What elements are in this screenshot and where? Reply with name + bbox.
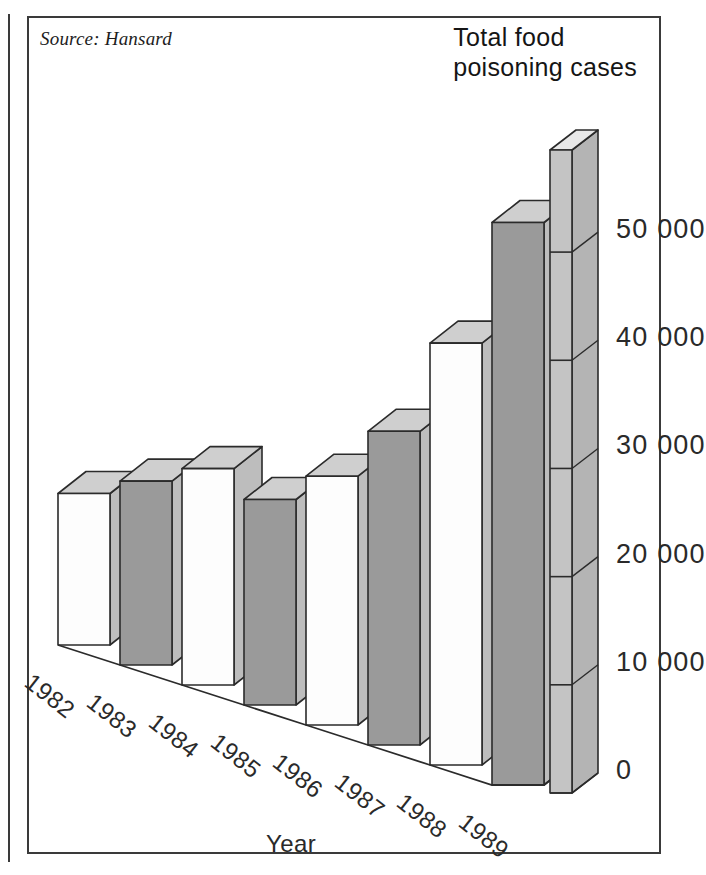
y-axis-slab-front [550,150,572,793]
y-axis-label-40000: 40 000 [616,322,706,353]
bar-front-1989 [492,223,544,786]
y-axis-label-20000: 20 000 [616,539,706,570]
y-axis-label-10000: 10 000 [616,647,706,678]
bar-front-1984 [182,469,234,685]
y-axis-slab [550,130,598,793]
y-axis-label-50000: 50 000 [616,214,706,245]
bar-front-1983 [120,481,172,665]
x-axis-title: Year [266,830,316,858]
bar-front-1982 [58,494,110,646]
y-axis-slab-side [572,130,598,793]
bar-front-1988 [430,343,482,765]
bar-front-1987 [368,431,420,745]
y-axis-label-30000: 30 000 [616,430,706,461]
bar-front-1985 [244,500,296,706]
bar-front-1986 [306,476,358,725]
y-axis-label-0: 0 [616,755,632,786]
